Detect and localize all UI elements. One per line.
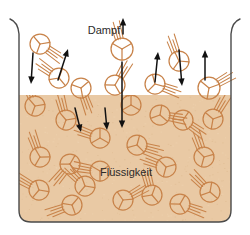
vapor-label: Dampf — [88, 24, 121, 36]
vaporization-diagram: Dampf Flüssigkeit — [0, 0, 250, 235]
diagram-canvas: Dampf Flüssigkeit — [0, 0, 250, 235]
liquid-fill — [19, 95, 231, 222]
liquid-label: Flüssigkeit — [100, 166, 152, 178]
